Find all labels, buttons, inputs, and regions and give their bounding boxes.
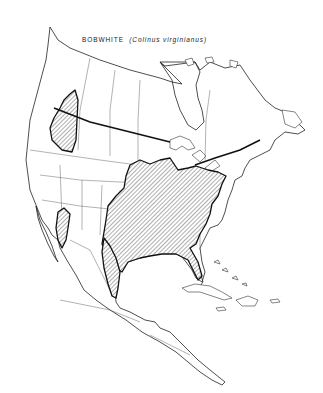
range-map <box>0 0 323 393</box>
hudson-bay <box>160 62 204 130</box>
arctic-islands <box>185 57 238 68</box>
range-boundary-line-east <box>195 140 260 165</box>
range-main-eastern <box>102 158 226 280</box>
puerto-rico <box>270 299 280 303</box>
baja-california <box>36 206 58 262</box>
range-pacific-northwest <box>50 90 78 152</box>
hispaniola <box>236 296 258 306</box>
newfoundland <box>282 110 302 128</box>
jamaica <box>216 307 226 311</box>
bahamas <box>214 260 247 286</box>
cuba <box>182 284 232 300</box>
